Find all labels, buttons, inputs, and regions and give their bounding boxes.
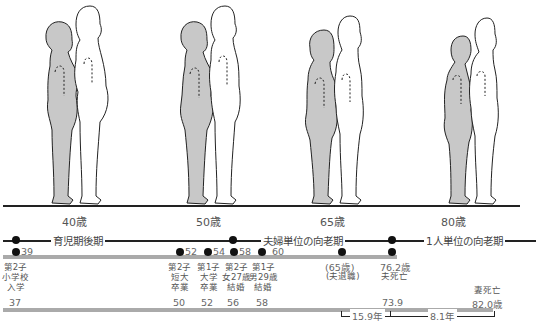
couple-figure-40 — [46, 6, 108, 204]
event-label: 夫死亡 — [381, 271, 408, 281]
wife-silhouette — [180, 22, 213, 204]
event-label: 第2子 女27歳 結婚 — [222, 262, 251, 292]
wife-age: 56 — [227, 297, 239, 308]
ground-line — [3, 205, 520, 207]
age-label-50: 50歳 — [196, 213, 221, 229]
marker-dot — [204, 248, 212, 256]
event-label: 第2子 短大 卒業 — [168, 262, 191, 292]
duration-label-1: 15.9年 — [350, 309, 385, 323]
couple-figure-65 — [305, 16, 363, 204]
couple-figure-50 — [180, 6, 240, 204]
event-label: 第1子 男29歳 結婚 — [249, 262, 278, 292]
couple-figure-80 — [444, 18, 498, 204]
event-label: 第1子 大学 卒業 — [197, 262, 220, 292]
couple-figures-illustration — [0, 0, 542, 208]
phase-boundary-dot-1 — [229, 236, 237, 244]
marker-age: 60 — [272, 246, 284, 257]
event-label: (夫退職) — [326, 271, 360, 281]
husband-outline — [470, 18, 499, 204]
marker-age: 58 — [239, 246, 251, 257]
marker-age: 54 — [213, 246, 225, 257]
marker-dot — [388, 248, 396, 256]
marker-dot — [338, 248, 346, 256]
wife-silhouette — [46, 22, 79, 204]
age-label-65: 65歳 — [320, 213, 345, 229]
wife-age: 37 — [9, 297, 21, 308]
husband-outline — [335, 16, 364, 204]
phase-boundary-dot-2 — [388, 236, 396, 244]
phase-label-child-rearing: 育児期後期 — [51, 233, 105, 248]
marker-dot — [230, 248, 238, 256]
marker-dot — [12, 248, 20, 256]
phase-label-single-aging: 1人単位の向老期 — [424, 233, 505, 248]
wife-silhouette — [305, 30, 337, 204]
event-label: 第2子 小学校 入学 — [2, 262, 29, 292]
husband-outline — [75, 6, 108, 204]
marker-dot — [176, 248, 184, 256]
phase-start-dot — [12, 236, 20, 244]
wife-age: 58 — [256, 297, 268, 308]
wife-silhouette — [444, 36, 472, 204]
wife-age: 73.9 — [382, 297, 403, 308]
age-label-80: 80歳 — [441, 213, 466, 229]
wife-death-label: 妻死亡 — [474, 285, 501, 295]
marker-age: 52 — [185, 246, 197, 257]
wife-age: 52 — [201, 297, 213, 308]
husband-life-bar — [3, 255, 397, 259]
marker-age: 39 — [21, 246, 33, 257]
husband-outline — [210, 6, 241, 204]
duration-label-2: 8.1年 — [428, 309, 457, 323]
marker-dot — [258, 248, 266, 256]
age-label-40: 40歳 — [62, 213, 87, 229]
wife-age: 50 — [173, 297, 185, 308]
